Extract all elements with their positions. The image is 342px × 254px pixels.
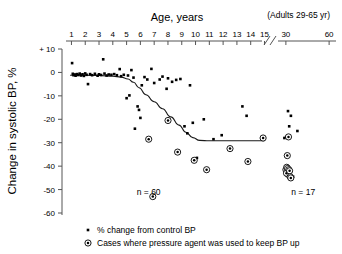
data-point-square <box>139 117 142 120</box>
data-point-square <box>171 81 174 84</box>
data-point-square <box>153 82 156 85</box>
x-tick-label-child: 14 <box>246 30 255 39</box>
x-tick-label-child: 8 <box>166 30 171 39</box>
data-point-square <box>287 110 290 113</box>
adults-range-label: (Adults 29-65 yr) <box>267 10 330 20</box>
data-point-square <box>132 76 135 79</box>
x-tick-label-adult: 30 <box>281 30 290 39</box>
x-tick-label-adult: 60 <box>325 30 334 39</box>
y-tick-label: 0 <box>51 68 56 77</box>
x-tick-label-child: 4 <box>111 30 116 39</box>
data-point-square <box>288 125 291 128</box>
legend-label-pressure-agent: Cases where pressure agent was used to k… <box>97 238 300 248</box>
data-point-square <box>100 74 103 77</box>
data-point-square <box>192 122 195 125</box>
data-point-square <box>245 115 248 118</box>
data-point-circled <box>288 175 294 181</box>
data-point-square <box>141 84 144 87</box>
x-tick-label-child: 12 <box>219 30 228 39</box>
sample-size-annotation: n = 60 <box>137 187 161 197</box>
data-point-square <box>127 74 130 77</box>
x-tick-label-child: 13 <box>232 30 241 39</box>
data-point-square <box>189 84 192 87</box>
data-point-circled <box>227 146 233 152</box>
scatter-plot: Age, years(Adults 29-65 yr)1234567891011… <box>0 0 342 254</box>
fitted-curve <box>70 75 264 141</box>
y-tick-label: -60 <box>43 209 55 218</box>
data-point-square <box>167 77 170 80</box>
x-tick-label-child: 10 <box>191 30 200 39</box>
data-point-square <box>138 109 141 112</box>
sample-size-annotation: n = 17 <box>291 187 315 197</box>
data-point-square <box>94 73 97 76</box>
y-tick-label: -20 <box>43 115 55 124</box>
y-tick-label: -10 <box>43 92 55 101</box>
data-point-square <box>161 75 164 78</box>
y-tick-label: -40 <box>43 162 55 171</box>
x-tick-label-child: 11 <box>205 30 214 39</box>
circled-marker-dot <box>193 159 196 162</box>
circled-marker-dot <box>287 136 290 139</box>
data-point-square <box>83 75 86 78</box>
data-point-square <box>87 83 90 86</box>
data-point-square <box>71 62 74 65</box>
x-tick-label-child: 9 <box>180 30 185 39</box>
data-point-square <box>125 97 128 100</box>
legend-marker-dot <box>87 242 90 245</box>
data-point-square <box>165 88 168 91</box>
data-point-square <box>116 74 119 77</box>
x-tick-label-child: 1 <box>69 30 74 39</box>
x-tick-label-child: 7 <box>152 30 157 39</box>
data-point-square <box>128 94 131 97</box>
y-axis-title: Change in systolic BP, % <box>6 68 18 195</box>
data-point-square <box>118 68 121 71</box>
data-point-square <box>179 78 182 81</box>
circled-marker-dot <box>147 138 150 141</box>
data-point-square <box>110 74 113 77</box>
chart-title: Age, years <box>151 11 204 23</box>
data-point-circled <box>165 117 171 123</box>
data-point-square <box>220 134 223 137</box>
chart-container: Age, years(Adults 29-65 yr)1234567891011… <box>0 0 342 254</box>
data-point-square <box>123 74 126 77</box>
data-point-square <box>91 74 94 77</box>
data-point-square <box>134 127 137 130</box>
legend-label-percent-change: % change from control BP <box>97 225 196 235</box>
data-point-square <box>212 138 215 141</box>
data-point-square <box>290 115 293 118</box>
data-point-circled <box>284 153 290 159</box>
data-point-square <box>146 78 149 81</box>
circled-marker-dot <box>290 177 293 180</box>
data-point-square <box>120 75 123 78</box>
data-point-circled <box>260 135 266 141</box>
x-tick-label-child: 5 <box>124 30 129 39</box>
data-point-square <box>158 78 161 81</box>
data-point-circled <box>287 168 293 174</box>
circled-marker-dot <box>205 168 208 171</box>
data-point-circled <box>204 167 210 173</box>
circled-marker-dot <box>176 151 179 154</box>
y-tick-label: -50 <box>43 186 55 195</box>
data-point-square <box>136 105 139 108</box>
data-point-square <box>143 76 146 79</box>
data-point-square <box>186 132 189 135</box>
data-point-square <box>85 74 88 77</box>
data-point-circled <box>191 157 197 163</box>
data-point-circled <box>245 158 251 164</box>
axis-break-slash-2 <box>270 36 276 45</box>
data-point-circled <box>146 136 152 142</box>
circled-marker-dot <box>286 154 289 157</box>
legend-marker-square <box>87 229 90 232</box>
data-point-circled <box>285 134 291 140</box>
x-tick-label-child: 2 <box>83 30 88 39</box>
data-point-square <box>113 73 116 76</box>
data-point-square <box>296 130 299 133</box>
data-point-square <box>183 125 186 128</box>
circled-marker-dot <box>288 170 291 173</box>
circled-marker-dot <box>247 160 250 163</box>
data-point-square <box>175 79 178 82</box>
data-point-square <box>150 68 153 71</box>
data-point-square <box>130 69 133 72</box>
circled-marker-dot <box>262 137 265 140</box>
x-tick-label-child: 6 <box>138 30 143 39</box>
